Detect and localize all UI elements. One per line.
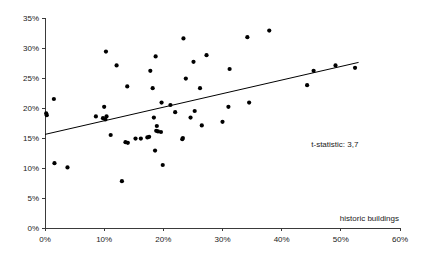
y-tick-label: 30% — [23, 44, 39, 53]
data-point — [198, 86, 202, 90]
data-point — [333, 63, 337, 67]
data-point — [152, 116, 156, 120]
data-point — [173, 110, 177, 114]
x-tick-label: 40% — [274, 235, 290, 244]
data-point — [159, 130, 163, 134]
data-point — [45, 113, 49, 117]
data-point — [267, 29, 271, 33]
data-point — [191, 60, 195, 64]
data-point — [200, 123, 204, 127]
data-point — [104, 114, 108, 118]
data-point — [353, 66, 357, 70]
data-point — [65, 165, 69, 169]
data-point — [102, 105, 106, 109]
scatter-chart: 0%5%10%15%20%25%30%35% 0%10%20%30%40%50%… — [0, 0, 423, 262]
data-point — [126, 141, 130, 145]
data-point — [181, 36, 185, 40]
data-point — [220, 120, 224, 124]
x-tick-label: 50% — [333, 235, 349, 244]
data-point — [184, 77, 188, 81]
x-tick-label: 10% — [96, 235, 112, 244]
data-point — [139, 137, 143, 141]
data-point — [204, 53, 208, 57]
data-point — [52, 161, 56, 165]
data-point — [181, 136, 185, 140]
t-statistic-annotation: t-statistic: 3,7 — [311, 140, 359, 149]
y-tick-label: 5% — [27, 194, 39, 203]
x-tick-label: 30% — [214, 235, 230, 244]
data-point — [154, 54, 158, 58]
x-axis-title: historic buildings — [340, 214, 399, 223]
y-tick-label: 0% — [27, 224, 39, 233]
data-point — [104, 50, 108, 54]
data-point — [188, 116, 192, 120]
y-tick-label: 25% — [23, 74, 39, 83]
data-point — [247, 101, 251, 105]
chart-canvas: 0%5%10%15%20%25%30%35% 0%10%20%30%40%50%… — [0, 0, 423, 262]
data-point — [120, 179, 124, 183]
data-point — [125, 84, 129, 88]
data-point — [133, 137, 137, 141]
data-point — [153, 149, 157, 153]
data-point — [228, 67, 232, 71]
data-point — [159, 101, 163, 105]
data-point — [305, 83, 309, 87]
x-tick-label: 60% — [392, 235, 408, 244]
data-point — [114, 63, 118, 67]
data-point — [94, 114, 98, 118]
data-point — [148, 69, 152, 73]
x-tick-label: 0% — [39, 235, 51, 244]
data-point — [193, 109, 197, 113]
data-point — [52, 97, 56, 101]
data-point — [147, 135, 151, 139]
y-tick-label: 15% — [23, 134, 39, 143]
data-point — [168, 103, 172, 107]
y-tick-label: 35% — [23, 14, 39, 23]
data-point — [155, 124, 159, 128]
data-point — [226, 105, 230, 109]
data-point — [151, 86, 155, 90]
data-point — [109, 133, 113, 137]
data-point — [245, 35, 249, 39]
data-point — [312, 69, 316, 73]
data-point — [161, 163, 165, 167]
y-tick-label: 20% — [23, 104, 39, 113]
y-tick-label: 10% — [23, 164, 39, 173]
x-tick-label: 20% — [155, 235, 171, 244]
